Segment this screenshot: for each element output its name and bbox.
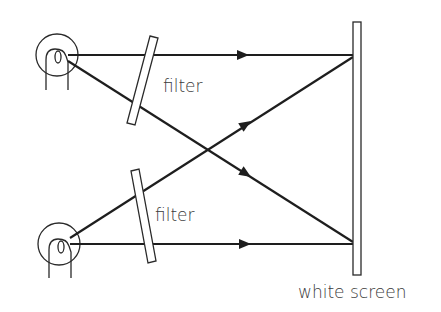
lamp-bottom (38, 223, 80, 278)
lamp-top (36, 34, 78, 90)
filter-top-label: filter (163, 76, 203, 96)
ray-top-diagonal (68, 61, 353, 242)
lamp-top-bulb-icon (46, 49, 68, 90)
white-screen-panel (353, 22, 361, 275)
filter-top-plate (127, 36, 158, 125)
lamp-top-filament-icon (55, 51, 61, 63)
filter-bottom-label: filter (155, 205, 195, 225)
ray-bottom-diagonal (70, 57, 353, 238)
arrow-right-icon (239, 239, 251, 249)
rays (68, 55, 353, 244)
arrowheads (237, 50, 254, 249)
lamp-bottom-bulb-icon (49, 239, 71, 278)
lamp-bottom-filament-icon (58, 241, 64, 253)
light-mixing-diagram: filter filter white screen (0, 0, 441, 312)
arrow-right-icon (237, 50, 249, 60)
filter-bottom: filter (131, 169, 195, 263)
arrow-down-right-icon (238, 166, 253, 181)
white-screen-label: white screen (298, 282, 406, 302)
filter-bottom-plate (131, 169, 156, 263)
filter-top: filter (127, 36, 203, 125)
white-screen: white screen (298, 22, 406, 302)
